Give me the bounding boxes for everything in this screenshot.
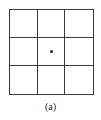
grid-cell-1-2 [65,38,93,66]
center-dot-icon [50,50,53,53]
grid-cell-0-2 [65,10,93,38]
grid-cell-0-0 [10,10,38,38]
3x3-grid [9,9,94,95]
figure-caption: (a) [0,101,101,113]
grid-cell-2-0 [10,66,38,94]
grid-cell-0-1 [38,10,66,38]
grid-cell-1-0 [10,38,38,66]
grid-cell-1-1-center [38,38,66,66]
grid-cell-2-2 [65,66,93,94]
grid-cell-2-1 [38,66,66,94]
